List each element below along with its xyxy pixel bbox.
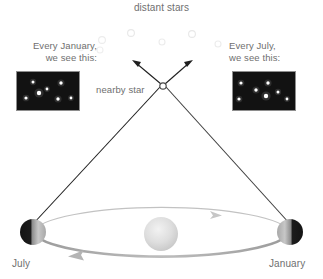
- star-field-january: [16, 71, 80, 111]
- sight-arrow-line-right: [165, 63, 189, 84]
- earth-january: [277, 219, 303, 245]
- right-caption-line-2: we see this:: [229, 52, 280, 63]
- orbit-arrow-back: [210, 211, 222, 219]
- sight-arrow-line-left: [136, 63, 161, 84]
- earth-july: [20, 219, 46, 245]
- right-panel-caption: Every July, we see this:: [229, 40, 319, 63]
- star-field-july-stars: [233, 72, 295, 110]
- earth-july-label: July: [12, 258, 30, 269]
- left-panel-caption: Every January, we see this:: [11, 40, 97, 63]
- distant-stars-field: [78, 30, 221, 53]
- parallax-diagram: distant stars nearby star Every January,…: [0, 0, 323, 279]
- diagram-title: distant stars: [0, 2, 323, 13]
- star-field-july: [232, 71, 296, 111]
- sun: [144, 217, 178, 251]
- nearby-star-marker: [160, 83, 166, 89]
- left-caption-line-1: Every January,: [33, 40, 97, 51]
- right-caption-line-1: Every July,: [229, 40, 276, 51]
- nearby-star-label: nearby star: [96, 84, 145, 95]
- earth-january-label: January: [269, 258, 305, 269]
- star-field-january-stars: [17, 72, 79, 110]
- left-caption-line-2: we see this:: [46, 52, 97, 63]
- orbit-arrow-front: [68, 250, 84, 261]
